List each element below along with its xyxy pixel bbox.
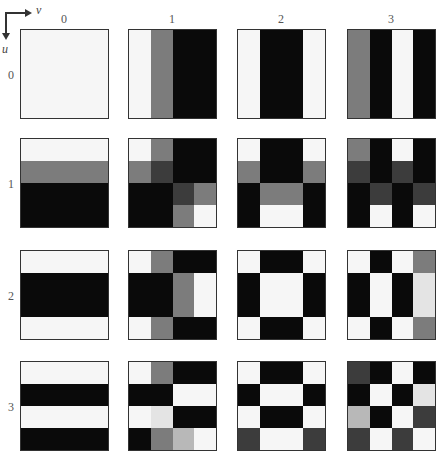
basis-cell <box>86 295 108 317</box>
basis-cell <box>370 205 392 227</box>
basis-cell <box>303 96 325 118</box>
basis-cell <box>21 52 43 74</box>
basis-cell <box>348 273 370 295</box>
basis-cell <box>129 205 151 227</box>
basis-cell <box>392 251 414 273</box>
basis-image-u3-v2 <box>237 361 326 451</box>
basis-cell <box>392 96 414 118</box>
basis-cell <box>348 96 370 118</box>
u-axis-label: u <box>2 42 8 57</box>
basis-image-u0-v3 <box>347 29 436 119</box>
basis-cell <box>173 428 195 450</box>
basis-cell <box>260 362 282 384</box>
basis-cell <box>348 406 370 428</box>
basis-cell <box>370 183 392 205</box>
basis-cell <box>86 384 108 406</box>
basis-cell <box>86 428 108 450</box>
basis-cell <box>238 183 260 205</box>
basis-cell <box>370 30 392 52</box>
basis-cell <box>238 273 260 295</box>
basis-cell <box>370 295 392 317</box>
basis-cell <box>151 183 173 205</box>
basis-cell <box>65 428 87 450</box>
basis-cell <box>43 406 65 428</box>
basis-cell <box>21 428 43 450</box>
basis-cell <box>86 205 108 227</box>
basis-cell <box>151 295 173 317</box>
row-label: 3 <box>1 400 21 415</box>
basis-cell <box>413 273 435 295</box>
basis-cell <box>303 295 325 317</box>
column-label: 0 <box>54 12 74 27</box>
basis-cell <box>173 251 195 273</box>
basis-cell <box>173 74 195 96</box>
basis-cell <box>86 74 108 96</box>
basis-cell <box>303 74 325 96</box>
basis-cell <box>173 205 195 227</box>
basis-cell <box>370 52 392 74</box>
basis-cell <box>303 273 325 295</box>
basis-cell <box>282 317 304 339</box>
basis-cell <box>260 384 282 406</box>
basis-cell <box>43 273 65 295</box>
basis-image-u2-v0 <box>20 250 109 340</box>
basis-image-u0-v1 <box>128 29 217 119</box>
basis-cell <box>392 183 414 205</box>
basis-cell <box>260 273 282 295</box>
basis-cell <box>129 161 151 183</box>
basis-image-u1-v1 <box>128 138 217 228</box>
basis-cell <box>21 161 43 183</box>
basis-cell <box>348 183 370 205</box>
basis-cell <box>65 52 87 74</box>
basis-cell <box>151 384 173 406</box>
basis-cell <box>348 74 370 96</box>
basis-cell <box>151 139 173 161</box>
basis-cell <box>151 406 173 428</box>
basis-cell <box>129 384 151 406</box>
basis-cell <box>238 139 260 161</box>
basis-cell <box>21 317 43 339</box>
basis-image-u1-v2 <box>237 138 326 228</box>
basis-cell <box>413 251 435 273</box>
basis-image-u2-v1 <box>128 250 217 340</box>
basis-cell <box>260 96 282 118</box>
basis-cell <box>65 384 87 406</box>
column-label: 2 <box>271 12 291 27</box>
basis-cell <box>21 273 43 295</box>
row-label: 0 <box>1 68 21 83</box>
basis-cell <box>282 406 304 428</box>
v-axis-label: v <box>36 3 41 18</box>
basis-cell <box>238 317 260 339</box>
basis-cell <box>392 205 414 227</box>
basis-cell <box>86 317 108 339</box>
basis-cell <box>21 74 43 96</box>
basis-cell <box>86 52 108 74</box>
basis-cell <box>65 273 87 295</box>
basis-cell <box>173 139 195 161</box>
basis-cell <box>303 317 325 339</box>
v-axis-arrow-icon <box>6 12 26 14</box>
basis-cell <box>370 161 392 183</box>
basis-cell <box>21 251 43 273</box>
basis-cell <box>65 317 87 339</box>
basis-cell <box>173 384 195 406</box>
basis-cell <box>348 139 370 161</box>
basis-cell <box>86 96 108 118</box>
basis-image-u3-v0 <box>20 361 109 451</box>
basis-cell <box>129 96 151 118</box>
basis-cell <box>129 74 151 96</box>
basis-cell <box>413 384 435 406</box>
basis-cell <box>194 384 216 406</box>
basis-cell <box>238 406 260 428</box>
basis-cell <box>238 30 260 52</box>
basis-cell <box>238 295 260 317</box>
basis-cell <box>129 295 151 317</box>
basis-cell <box>129 52 151 74</box>
basis-cell <box>194 161 216 183</box>
basis-cell <box>348 161 370 183</box>
basis-cell <box>43 317 65 339</box>
basis-cell <box>43 295 65 317</box>
basis-cell <box>370 362 392 384</box>
basis-image-u2-v3 <box>347 250 436 340</box>
basis-image-u1-v0 <box>20 138 109 228</box>
